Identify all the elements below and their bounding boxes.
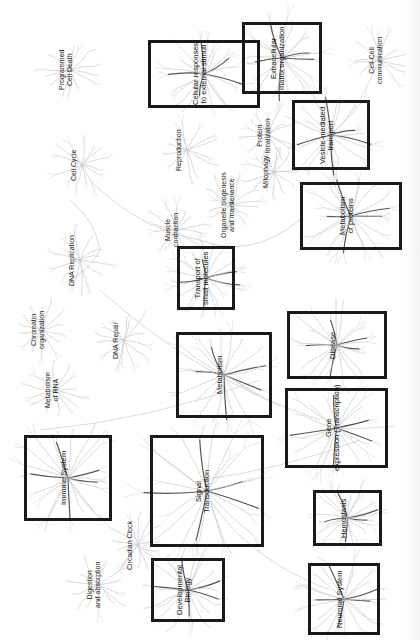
pathway-label-metabolism: Metabolism [216,356,224,394]
pathway-label-digestion-absorption[interactable]: Digestion and absorption [86,562,102,608]
pathway-label-hemostasis: Hemostasis [340,498,348,537]
pathway-diagram: Cellular responses to external stimuliEx… [0,0,420,640]
pathway-label-metabolism-proteins: Metabolism of proteins [339,197,355,235]
pathway-label-extracellular-matrix: Extracellular matrix organization [270,26,286,89]
pathway-label-dna-replication[interactable]: DNA Replication [68,235,76,286]
pathway-label-dna-repair[interactable]: DNA Repair [112,322,120,359]
page-edge-shadow [406,0,420,640]
pathway-label-organelle-biogenesis[interactable]: Organelle biogenesis and maintenance [220,172,236,238]
pathway-label-immune-system: Immune System [60,451,68,505]
pathway-label-vesicle-transport: Vesicle-mediated transport [319,106,335,163]
pathway-box-neuronal-system[interactable] [308,563,380,635]
pathway-label-disease: Disease [329,331,337,358]
pathway-label-programmed-cell-death[interactable]: Programmed Cell Death [58,50,74,90]
pathway-label-cell-cell-communication[interactable]: Cell-Cell communication [368,36,384,83]
pathway-label-muscle-contraction[interactable]: Muscle contraction [164,213,180,247]
pathway-box-immune-system[interactable] [24,435,112,521]
pathway-box-disease[interactable] [287,311,387,379]
pathway-label-signal-transduction: Signal Transduction [195,469,211,512]
pathway-label-protein-localization[interactable]: Protein localization [256,118,272,153]
pathway-label-mitophagy[interactable]: Mitophagy [262,156,270,188]
pathway-label-cell-cycle[interactable]: Cell Cycle [70,149,78,181]
pathway-label-transport-small-molecules: Transport of small molecules [194,251,210,304]
pathway-label-chromatin-organization[interactable]: Chromatin organization [30,311,46,349]
pathway-label-reproduction[interactable]: Reproduction [175,129,183,171]
pathway-label-cellular-responses: Cellular responses to external stimuli [192,43,208,105]
pathway-label-developmental-biology: Developmental Biology [176,565,192,615]
pathway-label-neuronal-system: Neuronal System [336,570,344,628]
pathway-label-gene-expression: Gene expression (Transcription) [325,385,341,471]
pathway-label-circadian-clock[interactable]: Circadian Clock [126,520,134,569]
pathway-label-metabolism-rna[interactable]: Metabolism of RNA [44,372,60,408]
pathway-box-metabolism[interactable] [176,332,272,418]
